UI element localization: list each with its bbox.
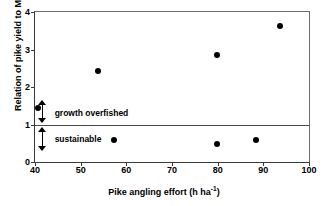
msy-reference-line bbox=[35, 125, 309, 126]
x-axis-tick-label: 100 bbox=[301, 166, 316, 175]
data-point bbox=[214, 141, 220, 147]
x-axis-tick-label: 50 bbox=[76, 166, 86, 175]
y-axis-tick-label: 1 bbox=[25, 120, 30, 129]
x-axis-title-close: ) bbox=[217, 187, 220, 197]
x-axis-tick-label: 70 bbox=[167, 166, 177, 175]
y-axis-tick bbox=[31, 12, 35, 13]
sustainable-label: sustainable bbox=[55, 135, 102, 144]
data-point bbox=[253, 137, 259, 143]
data-point bbox=[95, 68, 101, 74]
data-point bbox=[111, 137, 117, 143]
y-axis-title: Relation of pike yield to MSY bbox=[14, 0, 23, 130]
growth-overfished-label: growth overfished bbox=[55, 109, 129, 118]
sustainable-arrow-icon bbox=[38, 128, 47, 149]
x-axis-tick-label: 60 bbox=[121, 166, 131, 175]
x-axis-title: Pike angling effort (h ha-1) bbox=[0, 186, 328, 197]
data-point bbox=[277, 23, 283, 29]
y-axis-tick-label: 4 bbox=[25, 8, 30, 17]
data-point bbox=[214, 52, 220, 58]
y-axis-tick bbox=[31, 50, 35, 51]
y-axis-tick bbox=[31, 125, 35, 126]
y-axis-tick bbox=[31, 87, 35, 88]
x-axis-tick-label: 80 bbox=[213, 166, 223, 175]
x-axis-tick-label: 40 bbox=[30, 166, 40, 175]
growth-overfished-arrow-icon bbox=[38, 101, 47, 121]
figure-scatter-pike-yield: 01234405060708090100growth overfishedsus… bbox=[0, 0, 328, 206]
x-axis-title-main: Pike angling effort (h ha bbox=[108, 187, 211, 197]
plot-area: 01234405060708090100growth overfishedsus… bbox=[34, 11, 310, 163]
y-axis-tick-label: 3 bbox=[25, 45, 30, 54]
y-axis-tick-label: 2 bbox=[25, 83, 30, 92]
x-axis-tick-label: 90 bbox=[258, 166, 268, 175]
